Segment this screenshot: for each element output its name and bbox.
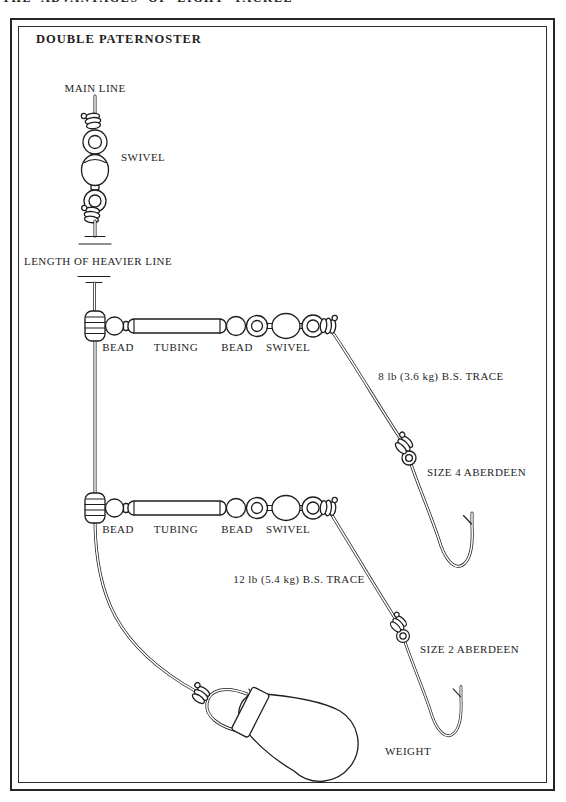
hook-size2-illustration xyxy=(386,611,461,736)
boom1-tubing-label: TUBING xyxy=(146,341,206,354)
hook-size4-illustration xyxy=(391,431,473,566)
boom2-bead-right-label: BEAD xyxy=(211,523,263,536)
boom1-bead-left-label: BEAD xyxy=(92,341,144,354)
main-line-label: MAIN LINE xyxy=(49,82,141,95)
hook2-label: SIZE 2 ABERDEEN xyxy=(420,643,519,656)
boom2-tubing-label: TUBING xyxy=(146,523,206,536)
weight-label: WEIGHT xyxy=(385,745,431,758)
boom2-bead-left-label: BEAD xyxy=(92,523,144,536)
swivel-label: SWIVEL xyxy=(121,151,165,164)
boom1-bead-right-label: BEAD xyxy=(211,341,263,354)
boom-1-illustration xyxy=(85,311,338,341)
line-break-mark-upper xyxy=(79,237,111,245)
hook1-label: SIZE 4 ABERDEEN xyxy=(427,466,526,479)
rig-diagram xyxy=(0,0,566,802)
trace1-label: 8 lb (3.6 kg) B.S. TRACE xyxy=(362,370,520,383)
weight-illustration xyxy=(187,682,358,782)
top-swivel-illustration xyxy=(79,96,111,244)
boom2-swivel-label: SWIVEL xyxy=(258,523,318,536)
trace2-label: 12 lb (5.4 kg) B.S. TRACE xyxy=(220,573,378,586)
line-knot xyxy=(81,112,102,130)
boom-2-illustration xyxy=(85,493,338,523)
boom1-swivel-label: SWIVEL xyxy=(258,341,318,354)
heavier-line-label: LENGTH OF HEAVIER LINE xyxy=(24,255,172,268)
